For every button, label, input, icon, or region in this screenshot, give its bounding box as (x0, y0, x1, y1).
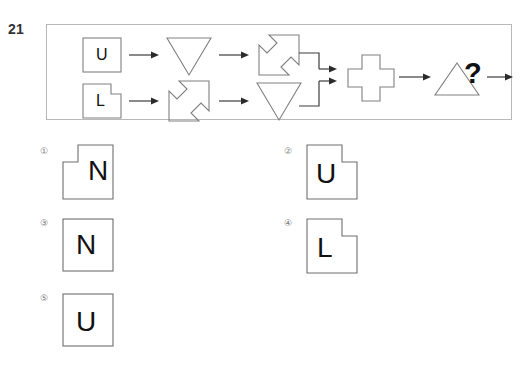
option-3-letter: N (76, 231, 96, 259)
arrow-bottom-2-head (241, 98, 249, 105)
merge-line-top (299, 53, 319, 69)
option-5-index: ⑤ (40, 294, 48, 303)
option-4-figure (304, 217, 364, 279)
arrow-top-1-head (151, 52, 159, 59)
input-top-letter: U (96, 47, 108, 63)
stimulus-frame: U L (46, 24, 512, 120)
option-2-index: ② (284, 147, 292, 156)
diagonal-double-arrow-icon-top (259, 35, 299, 75)
arrow-top-2-head (241, 52, 249, 59)
merge-arrow-bottom-head (329, 78, 337, 85)
question-mark: ? (464, 59, 482, 88)
arrow-merge-final-head (423, 74, 431, 81)
down-triangle-icon-bottom (257, 83, 301, 120)
option-1-letter: N (88, 157, 108, 185)
option-4-index: ④ (284, 219, 292, 228)
answer-option-2[interactable]: ② U (284, 143, 404, 205)
option-1-index: ① (40, 147, 48, 156)
flow-diagram-svg (47, 25, 513, 121)
input-bottom-letter: L (96, 93, 105, 109)
answer-option-5[interactable]: ⑤ U (40, 292, 160, 350)
diagonal-double-arrow-icon-bottom (169, 81, 209, 121)
cross-plus-icon (348, 55, 394, 101)
down-triangle-icon-top (167, 38, 211, 75)
merge-line-bottom (299, 81, 319, 106)
answer-option-3[interactable]: ③ N (40, 217, 160, 275)
merge-arrow-top-head (329, 66, 337, 73)
arrow-bottom-1-head (151, 98, 159, 105)
option-5-letter: U (76, 308, 96, 336)
question-number: 21 (8, 21, 24, 37)
arrow-final-answer-head (505, 74, 513, 81)
option-2-letter: U (316, 160, 336, 188)
option-3-index: ③ (40, 219, 48, 228)
option-4-letter: L (317, 234, 333, 262)
answer-option-1[interactable]: ① N (40, 143, 160, 205)
answer-option-4[interactable]: ④ L (284, 217, 404, 279)
